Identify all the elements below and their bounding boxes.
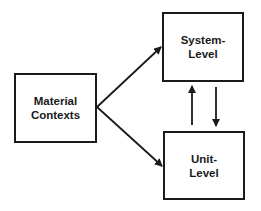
system-level-box: System- Level	[162, 12, 244, 82]
material-contexts-box: Material Contexts	[14, 73, 97, 143]
unit-level-box: Unit- Level	[163, 131, 245, 200]
unit-level-label: Unit- Level	[189, 152, 218, 180]
system-level-label: System- Level	[181, 33, 226, 61]
arrow-material-to-unit	[97, 107, 162, 166]
material-contexts-label: Material Contexts	[31, 94, 80, 122]
arrow-material-to-system	[97, 47, 161, 107]
